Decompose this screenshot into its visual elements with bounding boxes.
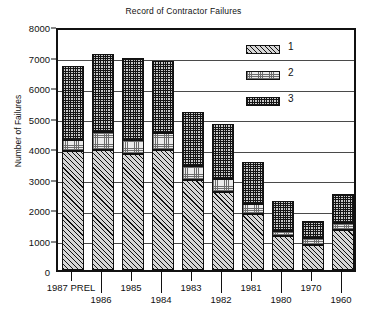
y-axis-tick-label: 4000 xyxy=(0,145,56,156)
y-axis-tick-label: 3000 xyxy=(0,175,56,186)
y-axis-tick-label: 2000 xyxy=(0,206,56,217)
bar-1986 xyxy=(92,26,114,270)
bar-segment-series-2 xyxy=(332,223,354,230)
bar-segment-series-1 xyxy=(182,180,204,270)
y-axis-tick-mark xyxy=(51,150,56,151)
legend-label: 1 xyxy=(288,41,294,52)
bar-segment-series-1 xyxy=(302,245,324,270)
bar-segment-series-3 xyxy=(92,54,114,132)
bar-segment-series-2 xyxy=(212,179,234,193)
y-axis-tick-mark xyxy=(51,58,56,59)
bar-segment-series-1 xyxy=(122,154,144,270)
x-axis-tick-label: 1970 xyxy=(300,282,321,293)
legend-item-1: 1 xyxy=(246,42,341,68)
bar-segment-series-2 xyxy=(242,204,264,213)
bar-segment-series-1 xyxy=(212,192,234,270)
bar-segment-series-1 xyxy=(92,150,114,270)
bar-segment-series-2 xyxy=(272,231,294,236)
y-axis-tick-mark xyxy=(51,180,56,181)
x-axis-tick-label: 1980 xyxy=(270,294,291,305)
x-axis-tick-mark xyxy=(281,272,282,293)
chart-legend: 123 xyxy=(246,42,341,120)
y-axis-tick-label: 0 xyxy=(0,267,56,278)
legend-swatch-diagonal-hatch xyxy=(246,45,280,54)
x-axis-tick-mark xyxy=(311,272,312,281)
y-axis-tick-label: 1000 xyxy=(0,236,56,247)
legend-swatch-dense-dots xyxy=(246,97,280,106)
x-axis-tick-mark xyxy=(341,272,342,293)
y-axis-tick-label: 6000 xyxy=(0,84,56,95)
legend-item-2: 2 xyxy=(246,68,341,94)
x-axis-tick-label: 1985 xyxy=(120,282,141,293)
bar-segment-series-3 xyxy=(212,124,234,179)
y-axis-tick-mark xyxy=(51,28,56,29)
bar-segment-series-3 xyxy=(182,112,204,165)
y-axis-tick-mark xyxy=(51,241,56,242)
y-axis-tick-mark xyxy=(51,89,56,90)
x-axis-tick-label: 1987 PREL xyxy=(47,282,96,293)
bar-1985 xyxy=(122,26,144,270)
bar-segment-series-2 xyxy=(122,140,144,154)
y-axis-tick-label: 5000 xyxy=(0,114,56,125)
bar-segment-series-3 xyxy=(62,66,84,140)
bar-segment-series-3 xyxy=(332,194,354,223)
x-axis-tick-label: 1983 xyxy=(180,282,201,293)
bar-segment-series-3 xyxy=(272,201,294,231)
bar-segment-series-1 xyxy=(272,236,294,270)
y-axis-tick-label: 8000 xyxy=(0,23,56,34)
chart-figure: Record of Contractor Failures Number of … xyxy=(0,0,367,316)
bar-segment-series-2 xyxy=(302,238,324,245)
bar-1982 xyxy=(212,26,234,270)
bar-segment-series-2 xyxy=(92,132,114,149)
legend-item-3: 3 xyxy=(246,94,341,120)
bar-segment-series-3 xyxy=(122,58,144,140)
bar-segment-series-1 xyxy=(152,150,174,270)
bar-segment-series-1 xyxy=(332,230,354,270)
x-axis-tick-label: 1986 xyxy=(90,294,111,305)
bar-segment-series-2 xyxy=(152,133,174,150)
x-axis-tick-mark xyxy=(191,272,192,281)
x-axis-tick-mark xyxy=(251,272,252,281)
bar-segment-series-1 xyxy=(62,151,84,270)
legend-label: 3 xyxy=(288,93,294,104)
page-title: Record of Contractor Failures xyxy=(0,6,367,16)
bar-segment-series-1 xyxy=(242,214,264,270)
bar-segment-series-2 xyxy=(182,166,204,180)
x-axis-tick-label: 1982 xyxy=(210,294,231,305)
x-axis-tick-mark xyxy=(221,272,222,293)
x-axis-tick-mark xyxy=(161,272,162,293)
y-axis-tick-mark xyxy=(51,211,56,212)
y-axis-tick-mark xyxy=(51,119,56,120)
x-axis-tick-label: 1984 xyxy=(150,294,171,305)
bar-1984 xyxy=(152,26,174,270)
legend-label: 2 xyxy=(288,67,294,78)
bar-segment-series-3 xyxy=(152,61,174,133)
x-axis-tick-label: 1960 xyxy=(330,294,351,305)
bar-segment-series-3 xyxy=(302,221,324,238)
bar-1983 xyxy=(182,26,204,270)
x-axis-tick-mark xyxy=(101,272,102,293)
legend-swatch-light-stipple xyxy=(246,71,280,80)
bar-segment-series-2 xyxy=(62,140,84,151)
bar-segment-series-3 xyxy=(242,162,264,204)
y-axis-tick-label: 7000 xyxy=(0,53,56,64)
bar-1987-prel xyxy=(62,26,84,270)
x-axis-tick-mark xyxy=(71,272,72,281)
x-axis-tick-mark xyxy=(131,272,132,281)
x-axis-tick-label: 1981 xyxy=(240,282,261,293)
